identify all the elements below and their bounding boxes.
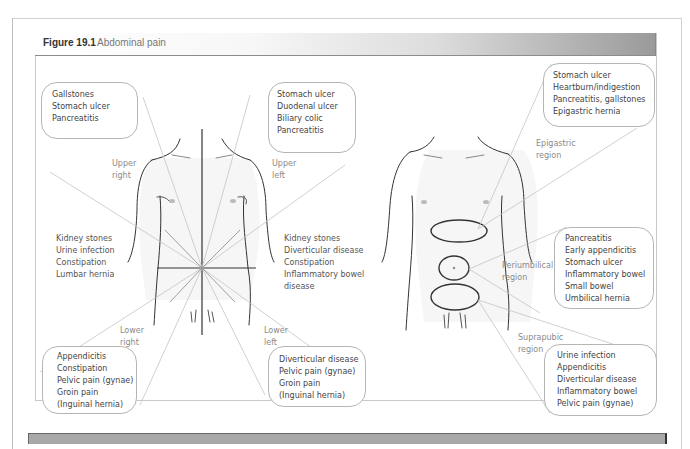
condition-text: Epigastric hernia: [553, 106, 646, 118]
condition-text: Inflammatory bowel: [565, 269, 645, 281]
label-upper-right: Upper right: [112, 158, 136, 182]
condition-text: Pelvic pain (gynae): [57, 375, 128, 387]
bubble-lower-right: Appendicitis Constipation Pelvic pain (g…: [42, 346, 137, 414]
condition-text: Pelvic pain (gynae): [279, 366, 357, 378]
label-epigastric-region: Epigastric region: [536, 138, 576, 162]
condition-text: Duodenal ulcer: [277, 101, 347, 113]
condition-text: Pancreatitis, gallstones: [553, 94, 646, 106]
condition-text: Lumbar hernia: [56, 269, 115, 281]
condition-text: Stomach ulcer: [52, 101, 129, 113]
condition-text: Diverticular disease: [557, 374, 648, 386]
condition-text: Pancreatitis: [52, 113, 129, 125]
flank-list-left: Kidney stones Diverticular disease Const…: [284, 233, 364, 293]
condition-text: Groin pain: [279, 378, 357, 390]
condition-text: (Inguinal hernia): [57, 399, 128, 411]
condition-text: Stomach ulcer: [565, 257, 645, 269]
condition-text: (Inguinal hernia): [279, 390, 357, 402]
condition-text: Kidney stones: [56, 233, 115, 245]
condition-text: Urine infection: [557, 350, 648, 362]
flank-list-right: Kidney stones Urine infection Constipati…: [56, 233, 115, 281]
condition-text: Inflammatory bowel: [557, 386, 648, 398]
condition-text: Diverticular disease: [284, 245, 364, 257]
bubble-suprapubic: Urine infection Appendicitis Diverticula…: [544, 344, 657, 416]
condition-text: Heartburn/indigestion: [553, 82, 646, 94]
bubble-epigastric: Stomach ulcer Heartburn/indigestion Panc…: [543, 63, 655, 127]
condition-text: disease: [284, 281, 364, 293]
condition-text: Constipation: [56, 257, 115, 269]
condition-text: Stomach ulcer: [277, 89, 347, 101]
condition-text: Gallstones: [52, 89, 129, 101]
condition-text: Pancreatitis: [565, 233, 645, 245]
condition-text: Constipation: [284, 257, 364, 269]
bubble-periumbilical: Pancreatitis Early appendicitis Stomach …: [554, 227, 654, 309]
condition-text: Pelvic pain (gynae): [557, 398, 648, 410]
condition-text: Appendicitis: [57, 351, 128, 363]
condition-text: Appendicitis: [557, 362, 648, 374]
condition-text: Urine infection: [56, 245, 115, 257]
right-torso-outline: [382, 137, 538, 330]
condition-text: Constipation: [57, 363, 128, 375]
bubble-upper-left: Stomach ulcer Duodenal ulcer Biliary col…: [268, 82, 356, 153]
condition-text: Inflammatory bowel: [284, 269, 364, 281]
condition-text: Umbilical hernia: [565, 293, 645, 305]
condition-text: Groin pain: [57, 387, 128, 399]
next-figure-header-bar: [28, 433, 667, 444]
condition-text: Diverticular disease: [279, 354, 357, 366]
bubble-upper-right: Gallstones Stomach ulcer Pancreatitis: [41, 82, 138, 139]
condition-text: Stomach ulcer: [553, 70, 646, 82]
condition-text: Kidney stones: [284, 233, 364, 245]
condition-text: Early appendicitis: [565, 245, 645, 257]
bubble-lower-left: Diverticular disease Pelvic pain (gynae)…: [268, 346, 366, 407]
condition-text: Pancreatitis: [277, 125, 347, 137]
condition-text: Biliary colic: [277, 113, 347, 125]
label-upper-left: Upper left: [272, 158, 296, 182]
condition-text: Small bowel: [565, 281, 645, 293]
label-periumbilical-region: Periumbilical region: [502, 260, 553, 284]
